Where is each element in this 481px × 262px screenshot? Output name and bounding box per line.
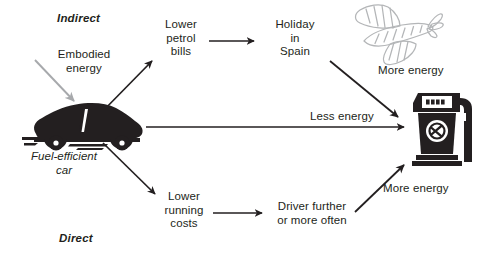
node-lower-running-costs: Lower running costs [154, 190, 214, 231]
node-lower-petrol-bills: Lower petrol bills [152, 18, 210, 59]
car-icon [22, 98, 148, 152]
fuel-pump-icon [404, 86, 476, 168]
node-holiday-in-spain: Holiday in Spain [262, 18, 328, 59]
node-driver-further-or-more-often: Driver further or more often [265, 200, 359, 227]
section-label-indirect: Indirect [57, 12, 100, 24]
node-fuel-efficient-car-label: Fuel-efficient car [14, 150, 114, 177]
edge-label-more-energy-bottom: More energy [383, 182, 473, 196]
section-label-direct: Direct [59, 232, 93, 244]
node-embodied-energy: Embodied energy [38, 48, 130, 75]
diagram-canvas: Indirect Direct Embodied energy Fuel-eff… [0, 0, 481, 262]
airplane-icon [348, 4, 444, 66]
edge-label-less-energy: Less energy [310, 110, 400, 124]
edge-label-more-energy-top: More energy [378, 64, 468, 78]
